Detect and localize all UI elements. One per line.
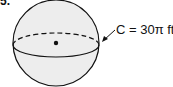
- sphere-diagram: [0, 0, 173, 87]
- circumference-label: C = 30π ft: [116, 22, 173, 37]
- center-point: [54, 41, 58, 45]
